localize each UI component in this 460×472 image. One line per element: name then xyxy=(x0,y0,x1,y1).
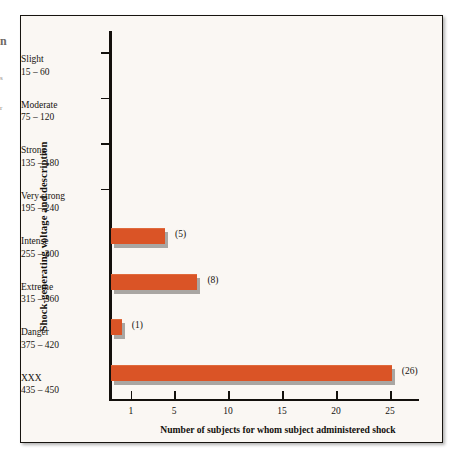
bar-row: Strong135 – 180 xyxy=(21,136,419,182)
bar-row: Very strong195 – 240 xyxy=(21,182,419,228)
x-axis-tick-label: 1 xyxy=(119,406,143,416)
figure-frame: Shock-generating voltage and description… xyxy=(20,15,443,443)
x-axis-tick xyxy=(390,391,392,399)
category-voltage-range: 315 – 360 xyxy=(21,293,95,306)
category-name: Intense xyxy=(21,236,48,246)
bar xyxy=(111,319,122,335)
x-axis-tick xyxy=(228,391,230,399)
category-voltage-range: 195 – 240 xyxy=(21,202,95,215)
category-name: Danger xyxy=(21,327,49,337)
y-axis-tick xyxy=(101,98,110,100)
margin-text-fragment-c: r xyxy=(0,104,10,112)
bar-row: Danger375 – 420(1) xyxy=(21,318,419,364)
x-axis-title: Number of subjects for whom subject admi… xyxy=(123,424,433,435)
bar-row: Moderate75 – 120 xyxy=(21,91,419,137)
margin-text-fragment-b: s xyxy=(0,74,10,82)
bar-value-label: (8) xyxy=(207,275,218,285)
category-label: Danger375 – 420 xyxy=(21,326,95,351)
bar xyxy=(111,365,392,381)
bar xyxy=(111,228,165,244)
category-voltage-range: 375 – 420 xyxy=(21,339,95,352)
y-axis-tick xyxy=(101,52,110,54)
bar-row: Slight15 – 60 xyxy=(21,45,419,91)
category-voltage-range: 75 – 120 xyxy=(21,111,95,124)
category-voltage-range: 435 – 450 xyxy=(21,384,95,397)
x-axis-tick xyxy=(336,391,338,399)
category-label: Very strong195 – 240 xyxy=(21,190,95,215)
category-name: Slight xyxy=(21,54,44,64)
category-label: XXX435 – 450 xyxy=(21,372,95,397)
category-name: Very strong xyxy=(21,191,65,201)
category-label: Moderate75 – 120 xyxy=(21,99,95,124)
category-voltage-range: 15 – 60 xyxy=(21,66,95,79)
category-name: XXX xyxy=(21,373,42,383)
x-axis-tick xyxy=(282,391,284,399)
category-label: Strong135 – 180 xyxy=(21,144,95,169)
bar-value-label: (1) xyxy=(132,320,143,330)
bar-row: Intense255 – 300(5) xyxy=(21,227,419,273)
y-axis-tick xyxy=(101,143,110,145)
x-axis-tick-label: 20 xyxy=(324,406,348,416)
category-label: Slight15 – 60 xyxy=(21,53,95,78)
category-name: Extreme xyxy=(21,282,53,292)
plot-area: Slight15 – 60Moderate75 – 120Strong135 –… xyxy=(109,31,419,401)
x-axis-tick-label: 5 xyxy=(162,406,186,416)
category-label: Extreme315 – 360 xyxy=(21,281,95,306)
y-axis-tick xyxy=(101,189,110,191)
x-axis-tick-label: 10 xyxy=(216,406,240,416)
bar-row: Extreme315 – 360(8) xyxy=(21,273,419,319)
margin-text-fragment-a: n xyxy=(0,34,11,49)
category-voltage-range: 135 – 180 xyxy=(21,157,95,170)
x-axis-tick xyxy=(174,391,176,399)
bar-value-label: (5) xyxy=(175,229,186,239)
x-axis-tick-label: 15 xyxy=(270,406,294,416)
category-name: Strong xyxy=(21,145,46,155)
x-axis-tick-label: 25 xyxy=(378,406,402,416)
bar xyxy=(111,274,197,290)
category-voltage-range: 255 – 300 xyxy=(21,248,95,261)
category-name: Moderate xyxy=(21,100,57,110)
x-axis-tick xyxy=(131,391,133,399)
category-label: Intense255 – 300 xyxy=(21,235,95,260)
bar-value-label: (26) xyxy=(402,366,418,376)
bar-row: XXX435 – 450(26) xyxy=(21,364,419,410)
